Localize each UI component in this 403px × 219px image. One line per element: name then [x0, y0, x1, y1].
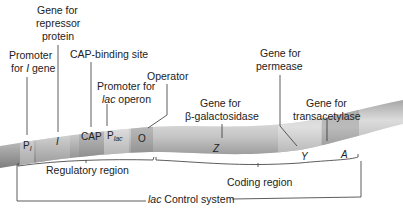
svg-text:transacetylase: transacetylase — [293, 110, 361, 122]
segment-label-a: A — [340, 149, 348, 160]
svg-text:for I gene: for I gene — [11, 62, 56, 74]
label-regulatory-region: Regulatory region — [46, 164, 129, 176]
svg-text:protein: protein — [42, 30, 74, 42]
label-promoter-i: Promoter for I gene — [9, 49, 56, 74]
lac-operon-diagram: PI I CAP Plac O Z Y A Promoter for I gen… — [0, 0, 403, 219]
label-promoter-lac: Promoter for lac operon — [97, 80, 156, 105]
svg-text:lac operon: lac operon — [102, 93, 151, 105]
segment-label-z: Z — [212, 143, 220, 154]
label-coding-region: Coding region — [227, 176, 293, 188]
segment-label-i: I — [56, 136, 59, 147]
segment-label-o: O — [138, 133, 146, 144]
label-permease-gene: Gene for permease — [256, 47, 303, 72]
svg-text:β-galactosidase: β-galactosidase — [185, 110, 259, 122]
label-transacetylase-gene: Gene for transacetylase — [293, 97, 361, 122]
svg-text:Promoter: Promoter — [9, 49, 53, 61]
svg-text:permease: permease — [256, 60, 303, 72]
svg-text:Gene for: Gene for — [200, 97, 241, 109]
svg-text:Gene for: Gene for — [260, 47, 301, 59]
segment-label-y: Y — [301, 151, 309, 162]
svg-text:Gene for: Gene for — [37, 4, 78, 16]
label-repressor-gene: Gene for repressor protein — [36, 4, 81, 42]
label-galactosidase-gene: Gene for β-galactosidase — [185, 97, 259, 122]
svg-text:repressor: repressor — [36, 17, 81, 29]
label-cap-binding-site: CAP-binding site — [70, 48, 148, 60]
segment-label-cap: CAP — [81, 131, 102, 142]
coding-bracket — [156, 154, 358, 167]
label-operator: Operator — [147, 70, 189, 82]
label-lac-control-system: lac Control system — [148, 193, 235, 205]
svg-text:Gene for: Gene for — [306, 97, 347, 109]
